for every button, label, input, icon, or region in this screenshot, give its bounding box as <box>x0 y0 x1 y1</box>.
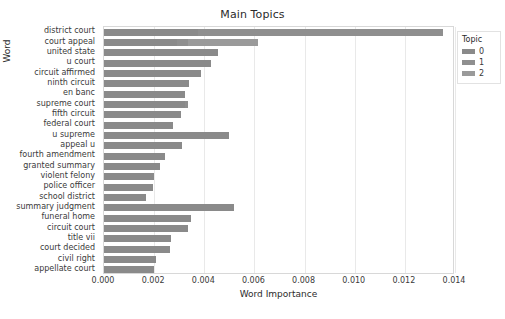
x-tick-label: 0.010 <box>342 276 365 285</box>
bar-segment[interactable] <box>104 91 185 98</box>
bar-row[interactable] <box>104 60 211 67</box>
y-tick-label: fourth amendment <box>19 150 95 159</box>
y-tick-label: appellate court <box>34 264 95 273</box>
bar-segment[interactable] <box>104 194 146 201</box>
bar-segment[interactable] <box>104 266 154 273</box>
bar-row[interactable] <box>104 173 154 180</box>
bar-row[interactable] <box>104 91 185 98</box>
chart-title: Main Topics <box>0 8 505 21</box>
bar-segment[interactable] <box>185 101 188 108</box>
legend-title: Topic <box>462 35 497 44</box>
y-tick-label: fifth circuit <box>52 109 95 118</box>
bar-segment[interactable] <box>104 246 170 253</box>
bar-row[interactable] <box>104 194 146 201</box>
y-tick-label: en banc <box>63 88 95 97</box>
bar-segment[interactable] <box>104 60 211 67</box>
legend-entry[interactable]: 0 <box>462 46 497 56</box>
x-tick-label: 0.002 <box>142 276 165 285</box>
y-tick-label: federal court <box>44 119 95 128</box>
bar-segment[interactable] <box>104 173 154 180</box>
bar-row[interactable] <box>104 204 234 211</box>
bar-segment[interactable] <box>104 153 165 160</box>
y-tick-label: u supreme <box>52 130 95 139</box>
y-tick-label: title vii <box>68 233 95 242</box>
bar-row[interactable] <box>104 256 156 263</box>
x-axis-label: Word Importance <box>103 289 454 299</box>
x-tick-label: 0.014 <box>443 276 466 285</box>
bar-segment[interactable] <box>104 49 218 56</box>
bar-segment[interactable] <box>104 101 185 108</box>
bar-row[interactable] <box>104 153 165 160</box>
legend-label: 1 <box>479 58 484 67</box>
bar-segment[interactable] <box>104 70 201 77</box>
y-tick-label: circuit affirmed <box>34 68 95 77</box>
bar-segment[interactable] <box>104 235 171 242</box>
bar-segment[interactable] <box>198 29 443 36</box>
y-tick-label: civil right <box>58 254 95 263</box>
x-tick-label: 0.004 <box>192 276 215 285</box>
bar-row[interactable] <box>104 163 160 170</box>
y-tick-label: appeal u <box>60 140 95 149</box>
bar-row[interactable] <box>104 132 229 139</box>
y-tick-label: funeral home <box>41 212 95 221</box>
bar-row[interactable] <box>104 80 189 87</box>
bar-segment[interactable] <box>104 39 177 46</box>
bar-segment[interactable] <box>104 215 191 222</box>
bar-segment[interactable] <box>104 80 189 87</box>
x-tick-label: 0.012 <box>392 276 415 285</box>
y-axis-tick-labels: district courtcourt appealunited stateu … <box>0 26 99 274</box>
y-tick-label: district court <box>44 26 95 35</box>
x-tick-label: 0.000 <box>92 276 115 285</box>
legend-label: 0 <box>479 47 484 56</box>
bar-row[interactable] <box>104 49 218 56</box>
bar-segment[interactable] <box>104 225 188 232</box>
bar-row[interactable] <box>104 215 191 222</box>
x-tick-label: 0.006 <box>242 276 265 285</box>
bar-row[interactable] <box>104 101 188 108</box>
plot-area <box>103 26 454 274</box>
bar-segment[interactable] <box>177 39 188 46</box>
y-tick-label: supreme court <box>37 99 95 108</box>
bar-segment[interactable] <box>104 111 181 118</box>
y-tick-label: police officer <box>43 181 95 190</box>
y-tick-label: court decided <box>40 243 95 252</box>
bar-row[interactable] <box>104 122 173 129</box>
grid-line <box>455 27 456 273</box>
bar-row[interactable] <box>104 142 182 149</box>
legend-swatch <box>462 71 475 76</box>
bar-segment[interactable] <box>104 132 229 139</box>
legend-entry[interactable]: 1 <box>462 57 497 67</box>
bar-row[interactable] <box>104 184 153 191</box>
bar-segment[interactable] <box>188 39 258 46</box>
bar-segment[interactable] <box>104 204 234 211</box>
bar-row[interactable] <box>104 266 154 273</box>
x-tick-label: 0.008 <box>292 276 315 285</box>
bar-row[interactable] <box>104 225 188 232</box>
legend-entry[interactable]: 2 <box>462 68 497 78</box>
bar-segment[interactable] <box>104 163 160 170</box>
y-tick-label: court appeal <box>45 37 95 46</box>
chart-figure: Main Topics Word district courtcourt app… <box>0 0 505 319</box>
y-tick-label: united state <box>47 47 95 56</box>
bar-row[interactable] <box>104 235 171 242</box>
y-tick-label: u court <box>67 57 95 66</box>
bar-row[interactable] <box>104 70 201 77</box>
bar-segment[interactable] <box>104 29 198 36</box>
bar-row[interactable] <box>104 111 181 118</box>
bar-row[interactable] <box>104 246 170 253</box>
y-tick-label: school district <box>39 192 95 201</box>
y-tick-label: ninth circuit <box>47 78 95 87</box>
bar-segment[interactable] <box>104 256 156 263</box>
bar-segment[interactable] <box>104 122 173 129</box>
bar-row[interactable] <box>104 29 443 36</box>
legend-swatch <box>462 60 475 65</box>
legend: Topic 012 <box>457 31 501 84</box>
bar-segment[interactable] <box>104 184 153 191</box>
bars-layer <box>104 27 453 273</box>
bar-segment[interactable] <box>104 142 182 149</box>
legend-entries: 012 <box>462 46 497 78</box>
bar-row[interactable] <box>104 39 258 46</box>
y-tick-label: granted summary <box>23 161 95 170</box>
legend-label: 2 <box>479 69 484 78</box>
y-tick-label: summary judgment <box>16 202 95 211</box>
